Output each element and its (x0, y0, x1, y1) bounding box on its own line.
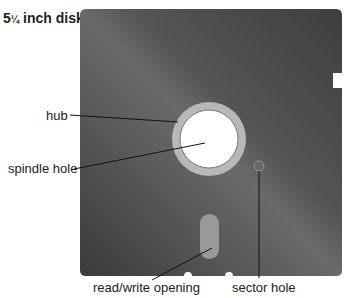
read-write-opening-label: read/write opening (93, 280, 200, 295)
spindle-hole (180, 110, 238, 168)
floppy-disk-diagram (0, 0, 346, 298)
read-write-opening (200, 214, 219, 259)
sector-hole-label: sector hole (232, 280, 296, 295)
sector-hole (254, 161, 264, 171)
hub-label: hub (46, 108, 68, 123)
spindle-hole-label: spindle hole (8, 161, 77, 176)
